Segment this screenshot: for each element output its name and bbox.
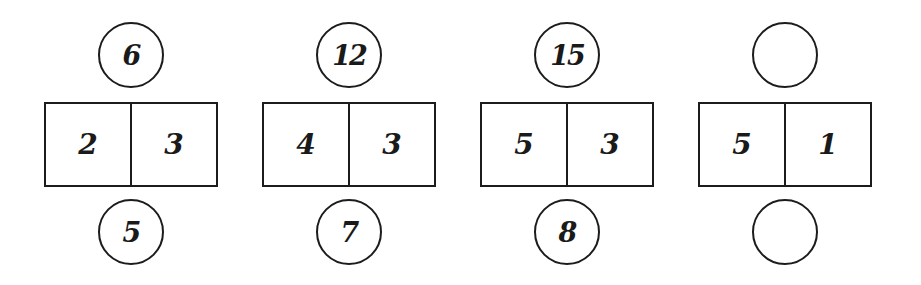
bottom-circle: 7 bbox=[316, 199, 382, 265]
split-box: 5 3 bbox=[480, 102, 654, 187]
split-box: 2 3 bbox=[44, 102, 218, 187]
puzzle-group-4: 5 1 bbox=[698, 0, 872, 285]
bottom-circle-blank bbox=[752, 199, 818, 265]
right-cell: 1 bbox=[786, 104, 870, 185]
right-cell: 3 bbox=[568, 104, 652, 185]
bottom-circle: 5 bbox=[98, 199, 164, 265]
left-cell: 5 bbox=[482, 104, 568, 185]
top-circle: 6 bbox=[98, 22, 164, 88]
bottom-circle: 8 bbox=[534, 199, 600, 265]
right-cell: 3 bbox=[350, 104, 434, 185]
puzzle-group-1: 6 2 3 5 bbox=[44, 0, 218, 285]
top-circle: 15 bbox=[534, 22, 600, 88]
top-circle-blank bbox=[752, 22, 818, 88]
puzzle-group-3: 15 5 3 8 bbox=[480, 0, 654, 285]
right-cell: 3 bbox=[132, 104, 216, 185]
split-box: 5 1 bbox=[698, 102, 872, 187]
split-box: 4 3 bbox=[262, 102, 436, 187]
left-cell: 5 bbox=[700, 104, 786, 185]
left-cell: 4 bbox=[264, 104, 350, 185]
puzzle-group-2: 12 4 3 7 bbox=[262, 0, 436, 285]
left-cell: 2 bbox=[46, 104, 132, 185]
top-circle: 12 bbox=[316, 22, 382, 88]
number-puzzle: 6 2 3 5 12 4 3 7 15 5 3 8 5 1 bbox=[0, 0, 921, 285]
